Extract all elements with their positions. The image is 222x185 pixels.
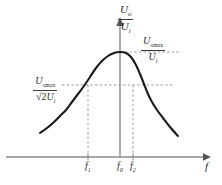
y-axis-label-denominator: Ui — [118, 20, 133, 35]
y-axis-label: Uo Ui — [118, 4, 133, 35]
peak-level-fraction: Uomax Ui — [141, 36, 165, 64]
x-tick-label-f2: f2 — [130, 160, 136, 173]
sqrt-icon — [35, 92, 42, 102]
x-tick-label-f1: f1 — [85, 160, 91, 173]
x-tick-label-f0: f0 — [117, 160, 123, 173]
x-axis — [6, 153, 211, 161]
peak-level-label: Uomax Ui — [141, 36, 165, 64]
frequency-response-curve — [40, 52, 178, 136]
x-axis-label: f — [205, 160, 208, 172]
peak-level-numerator: Uomax — [141, 36, 165, 51]
half-power-fraction: Uomax 2Ui — [33, 76, 57, 104]
half-power-denominator: 2Ui — [33, 91, 57, 104]
half-power-numerator: Uomax — [33, 76, 57, 91]
half-power-level-label: Uomax 2Ui — [33, 76, 57, 104]
y-axis-label-fraction: Uo Ui — [118, 4, 133, 35]
resonance-curve-figure: Uo Ui Uomax Ui Uomax 2Ui f1 f0 f2 f — [0, 0, 222, 185]
y-axis — [116, 17, 123, 157]
y-axis-label-numerator: Uo — [118, 4, 133, 20]
peak-level-denominator: Ui — [141, 51, 165, 64]
